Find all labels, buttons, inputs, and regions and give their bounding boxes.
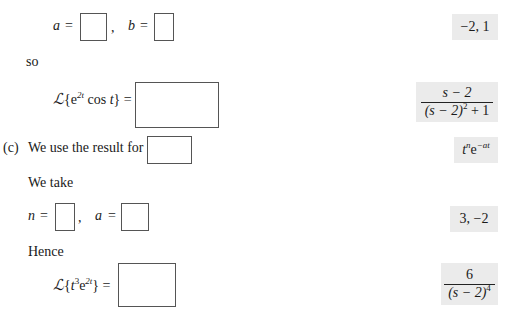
result-answer: tne−at	[454, 137, 498, 163]
laplace-cos-row: ℒ{e2t cos t} =	[53, 83, 253, 113]
expr-part: {e	[64, 92, 77, 107]
laplace-cos-expression: ℒ{e2t cos t} =	[53, 90, 132, 108]
b-label: b	[128, 18, 135, 34]
laplace-cos-answer-box[interactable]	[135, 82, 219, 128]
laplace-t3-expression: ℒ{t3e2t} =	[53, 276, 110, 294]
exp-at: −at	[477, 140, 490, 150]
expr-part: } =	[92, 278, 110, 293]
part-c-label: (c)	[3, 140, 19, 156]
laplace-symbol: ℒ	[53, 90, 64, 108]
laplace-cos-answer: s − 2 (s − 2)2 + 1	[416, 82, 498, 122]
so-text: so	[26, 54, 38, 70]
hence-text: Hence	[28, 244, 64, 260]
comma: ,	[111, 20, 115, 36]
laplace-symbol: ℒ	[53, 276, 64, 294]
result-answer-box[interactable]	[147, 136, 192, 164]
equals-sign: =	[65, 18, 73, 34]
ab-answer: −2, 1	[452, 14, 498, 40]
laplace-t3-answer: 6 (s − 2)4	[441, 263, 498, 305]
equals-sign: =	[40, 208, 48, 224]
den-exp: 4	[486, 283, 491, 293]
den-base: (s − 2)	[425, 103, 463, 118]
na-answer-text: 3, −2	[460, 211, 489, 227]
equals-sign: =	[108, 208, 116, 224]
result-answer-text: tne−at	[462, 142, 490, 158]
fraction: 6 (s − 2)4	[444, 267, 495, 300]
numerator: s − 2	[443, 85, 472, 100]
ab-answer-text: −2, 1	[461, 19, 490, 35]
fraction: s − 2 (s − 2)2 + 1	[421, 85, 494, 118]
denominator: (s − 2)4	[444, 285, 495, 301]
n-a-row: n = , a =	[28, 204, 228, 228]
b-answer-box[interactable]	[154, 13, 174, 41]
comma: ,	[78, 210, 82, 226]
part-c-text: We use the result for	[28, 140, 144, 156]
expr-part: cos	[84, 92, 110, 107]
laplace-t3-row: ℒ{t3e2t} =	[53, 264, 253, 308]
den-tail: + 1	[467, 103, 489, 118]
we-take-text: We take	[28, 175, 73, 191]
a-label: a	[53, 18, 60, 34]
a-answer-box[interactable]	[121, 203, 149, 231]
n-answer-box[interactable]	[55, 203, 75, 231]
na-answer: 3, −2	[450, 206, 498, 232]
expr-part: } =	[114, 92, 132, 107]
expr-part: {	[64, 278, 71, 293]
laplace-t3-answer-box[interactable]	[118, 263, 176, 307]
den-base: (s − 2)	[448, 285, 486, 300]
n-label: n	[28, 208, 35, 224]
a-b-row: a = , b =	[53, 14, 253, 38]
exponent: 2t	[77, 90, 84, 100]
a-answer-box[interactable]	[80, 13, 107, 41]
numerator: 6	[462, 267, 477, 283]
equals-sign: =	[140, 18, 148, 34]
a-label: a	[95, 208, 102, 224]
denominator: (s − 2)2 + 1	[421, 103, 494, 119]
